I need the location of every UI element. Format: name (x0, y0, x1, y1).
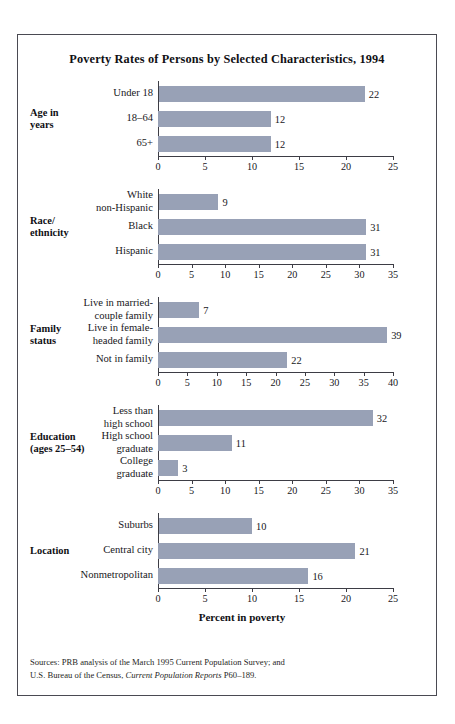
bar-row: Nonmetropolitan16 (18, 563, 436, 588)
axis-tick (158, 480, 159, 484)
category-label-line: graduate (18, 468, 153, 480)
axis-tick (326, 264, 327, 268)
x-axis-line (158, 588, 394, 589)
panel-group-label: Familystatus (30, 323, 122, 348)
bar (158, 327, 387, 343)
axis-spacer (18, 588, 158, 607)
x-axis: 05101520253035 (18, 264, 436, 283)
bar-plot-cell: 22 (158, 347, 408, 372)
bar (158, 543, 355, 559)
axis-tick (326, 480, 327, 484)
chart-panels: Age inyearsUnder 182218–641265+120510152… (18, 81, 436, 607)
x-axis: 0510152025 (18, 588, 436, 607)
axis-tick (334, 372, 335, 376)
axis-tick-label: 10 (220, 269, 230, 280)
x-axis-scale: 0510152025 (158, 156, 408, 175)
sources-suffix: P60–189. (222, 670, 257, 680)
axis-tick-label: 35 (359, 377, 369, 388)
bar-row: Whitenon-Hispanic9 (18, 189, 436, 214)
category-label-line: 65+ (18, 137, 153, 149)
category-label-line: Under 18 (18, 87, 153, 99)
bar-row: Not in family22 (18, 347, 436, 372)
axis-tick-label: 5 (185, 377, 190, 388)
chart-panel: LocationSuburbs10Central city21Nonmetrop… (18, 513, 436, 607)
bar-plot-cell: 7 (158, 297, 408, 322)
bar (158, 302, 199, 318)
bar-value-label: 22 (365, 88, 379, 99)
axis-tick-label: 20 (270, 377, 280, 388)
axis-tick (259, 480, 260, 484)
figure-frame: Poverty Rates of Persons by Selected Cha… (17, 34, 437, 696)
axis-tick (393, 264, 394, 268)
bar (158, 352, 287, 368)
axis-tick-label: 5 (202, 593, 207, 604)
axis-tick (252, 588, 253, 592)
bar-plot-cell: 3 (158, 455, 408, 480)
x-axis-scale: 05101520253035 (158, 264, 408, 283)
bar-value-label: 22 (287, 354, 301, 365)
axis-spacer (18, 480, 158, 499)
axis-tick-label: 0 (155, 161, 160, 172)
bar-row: Less thanhigh school32 (18, 405, 436, 430)
group-label-line: status (30, 335, 122, 347)
axis-tick (299, 156, 300, 160)
category-label-line: Live in married- (18, 297, 153, 309)
category-label-line: Hispanic (18, 245, 153, 257)
category-label-line: College (18, 455, 153, 467)
bar-value-label: 12 (271, 113, 285, 124)
category-label-line: high school (18, 418, 153, 430)
bar (158, 86, 365, 102)
bar-plot-cell: 39 (158, 322, 408, 347)
axis-tick (187, 372, 188, 376)
x-axis-scale: 05101520253035 (158, 480, 408, 499)
axis-spacer (18, 372, 158, 391)
panel-group-label: Location (30, 545, 122, 557)
axis-tick (393, 588, 394, 592)
category-label: Not in family (18, 353, 158, 365)
group-label-line: Family (30, 323, 122, 335)
axis-tick-label: 30 (354, 485, 364, 496)
bar-value-label: 39 (387, 329, 401, 340)
axis-tick-label: 0 (155, 377, 160, 388)
bar-value-label: 10 (252, 520, 266, 531)
axis-tick (158, 156, 159, 160)
bar-row: Suburbs10 (18, 513, 436, 538)
axis-tick-label: 25 (388, 593, 398, 604)
axis-tick-label: 20 (341, 593, 351, 604)
bar (158, 518, 252, 534)
axis-tick-label: 5 (202, 161, 207, 172)
axis-tick (276, 372, 277, 376)
bar-plot-cell: 12 (158, 131, 408, 156)
x-axis: 05101520253035 (18, 480, 436, 499)
panel-group-label: Age inyears (30, 107, 122, 132)
sources-line-2: U.S. Bureau of the Census, Current Popul… (30, 669, 424, 681)
bar-plot-cell: 11 (158, 430, 408, 455)
panel-group-label: Education(ages 25–54) (30, 431, 122, 456)
axis-tick-label: 5 (189, 485, 194, 496)
category-label-line: White (18, 189, 153, 201)
bar-value-label: 31 (366, 246, 380, 257)
axis-tick (192, 480, 193, 484)
group-label-line: (ages 25–54) (30, 443, 122, 455)
chart-title: Poverty Rates of Persons by Selected Cha… (18, 52, 436, 67)
category-label-line: Less than (18, 405, 153, 417)
category-label: Collegegraduate (18, 455, 158, 479)
category-label-line: non-Hispanic (18, 202, 153, 214)
axis-tick-label: 15 (241, 377, 251, 388)
axis-tick-label: 10 (247, 161, 257, 172)
bar-plot-cell: 22 (158, 81, 408, 106)
axis-tick (393, 372, 394, 376)
bar (158, 219, 366, 235)
category-label-line: Not in family (18, 353, 153, 365)
axis-tick (393, 480, 394, 484)
x-axis-scale: 0510152025303540 (158, 372, 408, 391)
sources-note: Sources: PRB analysis of the March 1995 … (30, 656, 424, 681)
axis-tick (292, 480, 293, 484)
bar (158, 111, 271, 127)
sources-line-1: Sources: PRB analysis of the March 1995 … (30, 656, 424, 668)
axis-spacer (18, 156, 158, 175)
axis-tick-label: 0 (155, 269, 160, 280)
axis-tick (364, 372, 365, 376)
bar (158, 136, 271, 152)
axis-tick-label: 35 (388, 269, 398, 280)
